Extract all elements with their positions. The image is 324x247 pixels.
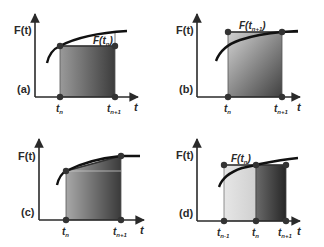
point bbox=[57, 94, 63, 100]
point bbox=[112, 94, 118, 100]
point bbox=[63, 217, 69, 223]
point bbox=[57, 43, 63, 49]
x-axis-label: t bbox=[140, 224, 145, 236]
panel-a: F(t) (a) t F(tn) tn tn+1 bbox=[14, 14, 139, 115]
point bbox=[225, 94, 231, 100]
point bbox=[63, 168, 69, 174]
y-axis-label: F(t) bbox=[176, 24, 194, 36]
point bbox=[283, 162, 289, 168]
right-half-rectangle bbox=[256, 165, 286, 221]
panel-d: F(t) (d) t F(tn) tn-1 tn tn+1 bbox=[176, 139, 302, 239]
annotation-label: F(tn) bbox=[231, 153, 251, 165]
panel-label: (c) bbox=[21, 206, 35, 218]
point bbox=[221, 162, 227, 168]
panel-c: F(t) (c) t tn tn+1 bbox=[18, 139, 145, 238]
x-axis-label: t bbox=[297, 101, 302, 113]
panel-label: (b) bbox=[179, 83, 193, 95]
y-axis-label: F(t) bbox=[18, 150, 36, 162]
tick-label: tn+1 bbox=[107, 103, 122, 115]
point bbox=[283, 218, 289, 224]
tick-label: tn-1 bbox=[217, 227, 230, 239]
tick-label: tn bbox=[224, 103, 231, 115]
annotation-label: F(tn) bbox=[93, 35, 113, 47]
point bbox=[253, 218, 259, 224]
tick-label: tn bbox=[56, 103, 63, 115]
panel-b: F(t) (b) t F(tn+1) tn tn+1 bbox=[176, 14, 302, 115]
point bbox=[118, 217, 124, 223]
numerical-integration-figure: F(t) (a) t F(tn) tn tn+1 F(t) (b) t F(tn… bbox=[0, 0, 324, 247]
panel-label: (d) bbox=[179, 207, 193, 219]
trapezoid bbox=[66, 156, 121, 220]
panel-label: (a) bbox=[17, 83, 31, 95]
tick-label: tn+1 bbox=[278, 227, 293, 239]
y-axis-label: F(t) bbox=[176, 149, 194, 161]
tick-label: tn+1 bbox=[274, 103, 289, 115]
tick-label: tn+1 bbox=[113, 226, 128, 238]
point bbox=[279, 94, 285, 100]
y-axis-label: F(t) bbox=[14, 24, 32, 36]
annotation-label: F(tn+1) bbox=[239, 20, 266, 32]
x-axis-label: t bbox=[297, 225, 302, 237]
point bbox=[118, 153, 124, 159]
point bbox=[279, 29, 285, 35]
tick-label: tn bbox=[62, 226, 69, 238]
point bbox=[253, 162, 259, 168]
left-endpoint-rectangle bbox=[60, 46, 115, 97]
point bbox=[225, 29, 231, 35]
point bbox=[221, 218, 227, 224]
tick-label: tn bbox=[252, 227, 259, 239]
x-axis-label: t bbox=[134, 101, 139, 113]
